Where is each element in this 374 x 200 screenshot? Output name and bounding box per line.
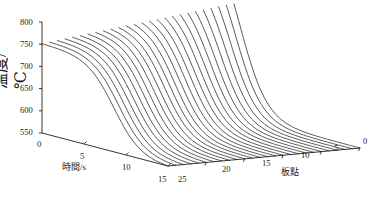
plate-tick-label-15: 15	[262, 159, 271, 168]
y-tick-label-750: 750	[20, 40, 33, 49]
time-tick-label-5: 5	[80, 152, 84, 161]
time-tick-label-10: 10	[122, 163, 131, 172]
time-tick-label-0: 0	[37, 140, 41, 149]
y-axis-title: 溫度/℃	[1, 45, 15, 89]
data-curve	[219, 7, 345, 150]
time-tick-label-15: 15	[158, 175, 167, 184]
y-tick-label-600: 600	[20, 106, 33, 115]
time-axis-title: 時間/s	[62, 163, 86, 172]
y-tick-label-800: 800	[20, 18, 33, 27]
data-curves	[42, 4, 360, 166]
y-tick-label-700: 700	[20, 62, 33, 71]
waterfall-chart-figure: 溫度/℃ 800 750 700 650 600 550 0 5 10 15 時…	[0, 0, 374, 200]
plate-tick-label-10: 10	[301, 151, 310, 160]
plate-axis-title: 板點	[281, 168, 299, 177]
y-tick-label-550: 550	[20, 128, 33, 137]
plate-tick-label-25: 25	[178, 175, 187, 184]
plot-canvas	[0, 0, 374, 200]
plate-tick-label-0: 0	[363, 137, 367, 146]
plate-tick-label-5: 5	[334, 144, 338, 153]
y-tick-label-650: 650	[20, 84, 33, 93]
plate-tick-label-20: 20	[222, 165, 231, 174]
